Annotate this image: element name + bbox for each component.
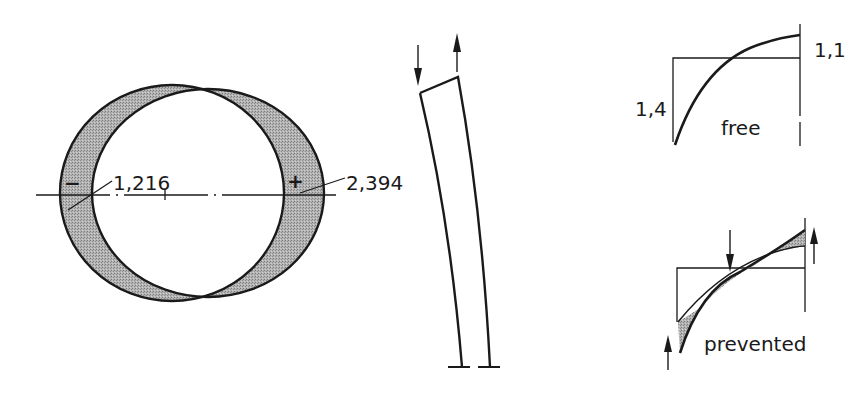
- up-arrow-icon: [810, 227, 818, 264]
- cross-section-diagram: − 1,216 + 2,394: [36, 85, 403, 301]
- beam-diagram: [414, 33, 500, 367]
- down-arrow-icon: [414, 45, 422, 86]
- sign-minus: −: [64, 171, 81, 195]
- free-right-value: 1,1: [814, 38, 846, 62]
- up-arrow-icon: [664, 335, 672, 370]
- beam-outline: [420, 77, 490, 367]
- prevented-plot: prevented: [664, 218, 818, 370]
- value-label-right: 2,394: [346, 171, 403, 195]
- sign-plus: +: [287, 169, 304, 193]
- prevented-label: prevented: [704, 332, 806, 356]
- down-arrow-icon: [726, 230, 734, 272]
- free-label: free: [721, 116, 760, 140]
- diagram-canvas: − 1,216 + 2,394 1,4 1,1 free: [0, 0, 850, 402]
- value-label-left: 1,216: [113, 171, 170, 195]
- up-arrow-icon: [453, 33, 461, 72]
- free-left-value: 1,4: [635, 97, 667, 121]
- free-plot: 1,4 1,1 free: [635, 24, 846, 146]
